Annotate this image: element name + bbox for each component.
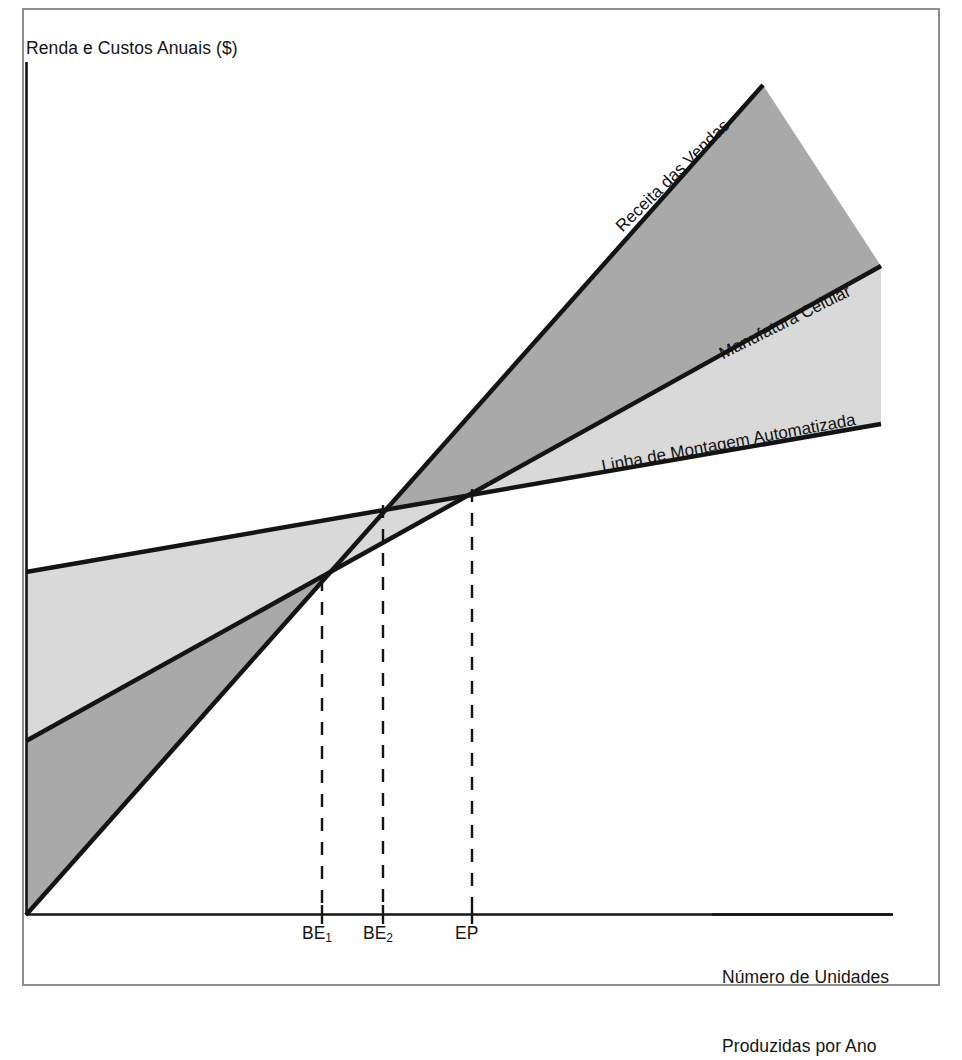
tick-label-be2-base: BE [363,923,386,943]
x-axis-title-line-2: Produzidas por Ano [722,1035,889,1058]
x-axis-title: Número de Unidades Produzidas por Ano [722,920,889,1060]
tick-label-ep: EP [455,923,478,944]
x-axis-title-line-1: Número de Unidades [722,966,889,989]
tick-label-be2: BE2 [363,923,393,945]
tick-label-be2-subscript: 2 [386,931,393,945]
y-axis-title: Renda e Custos Anuais ($) [26,38,238,59]
tick-label-be1: BE1 [302,923,332,945]
tick-label-be1-base: BE [302,923,325,943]
tick-label-be1-subscript: 1 [325,931,332,945]
